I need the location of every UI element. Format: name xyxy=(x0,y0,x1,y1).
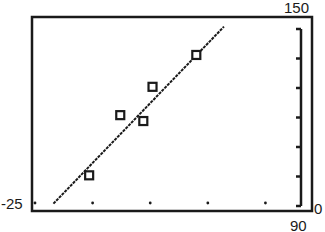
data-point-marker xyxy=(116,111,124,119)
data-point-marker xyxy=(192,51,200,59)
x-tick-dot xyxy=(206,202,209,205)
xmin-label: -25 xyxy=(1,196,23,211)
xmax-label: 90 xyxy=(290,218,307,232)
scatter-plot xyxy=(0,0,325,232)
ymin-label: 0 xyxy=(314,201,322,216)
y-axis xyxy=(296,29,301,206)
x-tick-dot xyxy=(34,202,37,205)
data-point-marker xyxy=(149,83,157,91)
data-point-marker xyxy=(139,117,147,125)
x-axis-tick-dots xyxy=(34,202,267,205)
x-tick-dot xyxy=(149,202,152,205)
data-point-marker xyxy=(85,171,93,179)
ymax-label: 150 xyxy=(284,0,309,15)
x-tick-dot xyxy=(264,202,267,205)
x-tick-dot xyxy=(91,202,94,205)
